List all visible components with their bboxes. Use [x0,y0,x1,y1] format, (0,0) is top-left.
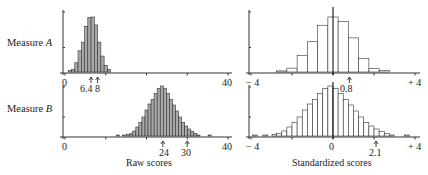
histogram-bar [338,21,348,72]
histogram-bar [369,126,374,136]
raw-axis-max-b: 40 [222,141,232,152]
histogram-bar [72,69,75,72]
histogram-bar [307,104,312,136]
standardized-axis-title: Standardized scores [292,157,372,168]
histogram-bar [194,134,197,137]
histogram-bar [81,42,84,72]
std-axis-max-b: + 4 [408,141,421,152]
histogram-bar [354,111,359,136]
std-axis-min-a: − 4 [246,77,259,88]
std-axis-zero-b: 0 [329,141,334,152]
histogram-bar [318,94,323,137]
histogram-bar [172,105,175,136]
histogram-bar [142,117,145,136]
histogram-bar [163,89,166,137]
histogram-bar [179,117,182,136]
histogram-bar [384,134,389,137]
histogram-bar [157,89,160,137]
histogram-bar [139,123,142,137]
chart-measure-b-standardized [246,82,420,147]
histogram-bar [297,56,307,73]
histogram-bar [176,111,179,136]
chart-measure-a-raw [60,10,232,83]
std-axis-max-a: + 4 [408,77,421,88]
histogram-bar [277,134,282,137]
histogram-bar [287,68,297,72]
histogram-bar [88,18,91,72]
histogram-bar [343,100,348,137]
histogram-bar [348,38,358,72]
histogram-bar [287,127,292,136]
histogram-bar [123,135,126,136]
histogram-bar [104,65,107,72]
raw-axis-min-a: 0 [62,77,67,88]
histogram-bar [75,63,78,72]
histogram-bar [323,89,328,137]
histogram-bar [182,123,185,137]
histogram-bar [313,100,318,137]
histogram-bar [348,105,353,136]
histogram-bar [328,86,333,136]
chart-measure-b-raw [60,85,232,147]
histogram-bar [160,86,163,136]
histogram-bar [78,51,81,72]
histogram-bar [148,104,151,136]
marker-label-a-mean: 6.4 [80,83,93,94]
histogram-bar [208,135,211,136]
histogram-bar [297,117,302,136]
histogram-bar [282,131,287,136]
marker-label-a-std: 0.8 [340,83,353,94]
histogram-bar [364,123,369,137]
histogram-bar [166,94,169,137]
histogram-bar [127,135,130,137]
histogram-bar [338,94,343,137]
histogram-bar [85,26,88,72]
histogram-bar [302,110,307,136]
histogram-bar [94,25,97,72]
histogram-bar [263,135,268,136]
histogram-bar [185,126,188,136]
histogram-bar [379,132,384,137]
raw-axis-title: Raw scores [126,157,172,168]
histogram-bar [359,117,364,136]
histogram-bar [292,123,297,137]
histogram-bar [151,100,154,137]
histogram-bar [91,17,94,72]
histogram-bar [98,42,101,72]
histogram-bar [318,25,328,72]
histogram-bar [333,89,338,137]
raw-axis-max-a: 40 [222,77,232,88]
histogram-bar [307,42,317,72]
histogram-bar [68,71,71,72]
histogram-figure: 0 40 0 40 − 4 + 4 − 4 0 + 4 6.4 8 24 30 … [0,0,428,175]
histogram-bar [374,129,379,136]
histogram-bar [145,110,148,136]
histogram-bar [191,132,194,137]
std-axis-min-b: − 4 [246,141,259,152]
histogram-bar [133,131,136,136]
histogram-bar [107,69,110,72]
marker-label-b-sd: 30 [181,147,191,158]
histogram-bar [169,100,172,137]
histogram-bar [253,135,258,136]
histogram-bar [359,58,369,72]
chart-measure-a-standardized [246,7,420,83]
histogram-bar [197,135,200,136]
histogram-bar [379,70,389,72]
raw-axis-min-b: 0 [62,141,67,152]
histogram-bar [101,56,104,72]
marker-label-a-sd: 8 [95,83,100,94]
histogram-bar [154,94,157,137]
histogram-bar [116,135,119,136]
histogram-bar [277,71,287,72]
histogram-bar [389,135,394,136]
histogram-bar [404,135,409,136]
histogram-bar [369,69,379,72]
histogram-bar [136,127,139,136]
histogram-bar [188,129,191,136]
